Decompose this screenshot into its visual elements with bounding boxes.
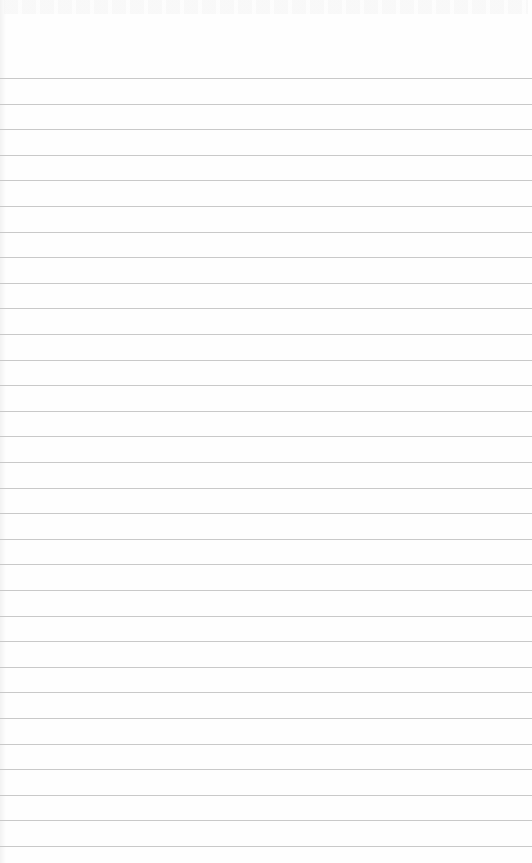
ruled-line bbox=[0, 513, 532, 514]
ruled-line bbox=[0, 78, 532, 79]
ruled-line bbox=[0, 206, 532, 207]
ruled-line bbox=[0, 488, 532, 489]
ruled-line bbox=[0, 590, 532, 591]
ruled-line bbox=[0, 283, 532, 284]
ruled-line bbox=[0, 436, 532, 437]
ruled-line bbox=[0, 360, 532, 361]
ruled-line bbox=[0, 411, 532, 412]
ruled-line bbox=[0, 846, 532, 847]
ruled-line bbox=[0, 180, 532, 181]
notebook-page bbox=[0, 0, 532, 863]
ruled-line bbox=[0, 257, 532, 258]
ruled-line bbox=[0, 744, 532, 745]
ruled-line bbox=[0, 129, 532, 130]
bleed-through-header bbox=[4, 0, 528, 14]
ruled-line bbox=[0, 795, 532, 796]
ruled-line bbox=[0, 308, 532, 309]
ruled-line bbox=[0, 667, 532, 668]
ruled-line bbox=[0, 385, 532, 386]
ruled-line bbox=[0, 104, 532, 105]
ruled-line bbox=[0, 564, 532, 565]
ruled-line bbox=[0, 334, 532, 335]
ruled-line bbox=[0, 718, 532, 719]
ruled-line bbox=[0, 232, 532, 233]
ruled-line bbox=[0, 539, 532, 540]
ruled-line bbox=[0, 769, 532, 770]
ruled-line bbox=[0, 641, 532, 642]
ruled-line bbox=[0, 155, 532, 156]
ruled-line bbox=[0, 616, 532, 617]
ruled-line bbox=[0, 820, 532, 821]
ruled-line bbox=[0, 692, 532, 693]
ruled-line bbox=[0, 462, 532, 463]
